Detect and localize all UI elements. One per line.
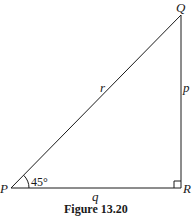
- right-angle-marker: [174, 181, 181, 188]
- vertex-label-p: P: [0, 181, 8, 196]
- vertex-label-r: R: [182, 181, 191, 196]
- vertex-label-q: Q: [176, 0, 186, 15]
- angle-arc-p: [24, 175, 29, 188]
- triangle-pqr: [11, 15, 181, 188]
- side-label-p: p: [182, 80, 190, 95]
- figure-caption: Figure 13.20: [64, 202, 128, 216]
- angle-label-p: 45°: [31, 175, 48, 189]
- triangle-diagram: Q P R p r q 45° Figure 13.20: [0, 0, 193, 217]
